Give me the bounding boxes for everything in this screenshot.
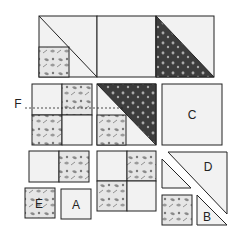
label-d: D: [204, 160, 213, 174]
unit-2: [97, 16, 156, 77]
label-c: C: [188, 108, 197, 122]
label-f: F: [14, 97, 21, 111]
four-patch: [97, 151, 156, 211]
label-b: B: [203, 210, 211, 224]
label-a: A: [72, 198, 80, 212]
quilt-diagram: C F E A D B: [0, 0, 240, 239]
print-square: [162, 195, 192, 225]
four-patch-F: [32, 84, 92, 145]
square-E: E: [25, 188, 55, 218]
square-A: A: [61, 189, 91, 219]
two-patch-strip: [29, 151, 89, 182]
unit-3: [156, 16, 214, 77]
label-e: E: [35, 197, 43, 211]
unit-1: [39, 16, 97, 77]
square-C: C: [162, 84, 222, 145]
unit-5: [97, 84, 156, 145]
